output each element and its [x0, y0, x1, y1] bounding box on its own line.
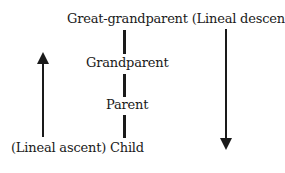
- connector-line-1: [123, 30, 126, 54]
- great-grandparent-label: Great-grandparent (Lineal descent): [67, 11, 285, 27]
- descent-arrow-shaft: [225, 29, 227, 139]
- connector-line-2: [123, 74, 126, 97]
- parent-label: Parent: [106, 97, 148, 113]
- connector-line-3: [123, 115, 126, 138]
- ascent-arrow-shaft: [42, 62, 44, 137]
- arrow-down-icon: [220, 138, 232, 150]
- child-label: (Lineal ascent) Child: [11, 140, 144, 156]
- grandparent-label: Grandparent: [86, 55, 168, 71]
